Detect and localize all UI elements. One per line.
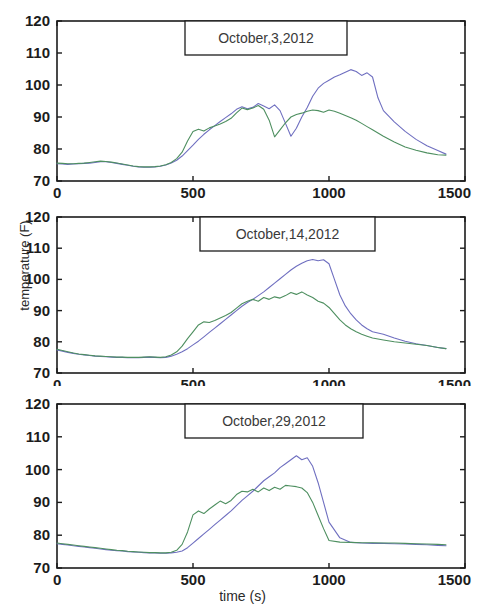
y-tick-label: 120: [25, 12, 50, 29]
y-tick-label: 120: [25, 395, 50, 412]
y-tick-label: 80: [33, 140, 50, 157]
chart-svg: 708090100110120050010001500October,29,20…: [0, 386, 485, 586]
chart-title: October,14,2012: [236, 226, 340, 242]
chart-panel-october-29: 708090100110120050010001500October,29,20…: [0, 386, 485, 586]
series-line-blue: [57, 456, 446, 553]
y-tick-label: 80: [33, 333, 50, 350]
y-tick-label: 100: [25, 461, 50, 478]
x-axis-label: time (s): [0, 588, 485, 604]
x-tick-label: 1500: [438, 571, 471, 586]
x-tick-label: 1500: [438, 376, 471, 386]
y-tick-label: 100: [25, 76, 50, 93]
x-tick-label: 1000: [312, 571, 345, 586]
chart-svg: 708090100110120050010001500October,3,201…: [0, 0, 485, 200]
chart-title: October,3,2012: [218, 30, 314, 46]
x-tick-label: 500: [180, 571, 205, 586]
temperature-time-figure: 708090100110120050010001500October,3,201…: [0, 0, 485, 611]
chart-title: October,29,2012: [222, 413, 326, 429]
y-tick-label: 90: [33, 108, 50, 125]
y-tick-label: 70: [33, 364, 50, 381]
y-tick-label: 90: [33, 493, 50, 510]
y-tick-label: 70: [33, 559, 50, 576]
x-tick-label: 500: [180, 376, 205, 386]
series-line-green: [57, 292, 446, 358]
y-tick-label: 70: [33, 172, 50, 189]
x-tick-label: 0: [53, 376, 61, 386]
x-tick-label: 0: [53, 571, 61, 586]
series-line-blue: [57, 259, 446, 357]
y-axis-label: temperature (F): [17, 196, 32, 336]
series-line-green: [57, 485, 446, 553]
series-line-blue: [57, 70, 446, 168]
x-tick-label: 1000: [312, 376, 345, 386]
chart-svg: 708090100110120050010001500October,14,20…: [0, 196, 485, 386]
y-tick-label: 90: [33, 302, 50, 319]
y-tick-label: 80: [33, 526, 50, 543]
y-tick-label: 110: [26, 428, 50, 445]
chart-panel-october-14: 708090100110120050010001500October,14,20…: [0, 196, 485, 386]
y-tick-label: 110: [26, 44, 50, 61]
chart-panel-october-3: 708090100110120050010001500October,3,201…: [0, 0, 485, 200]
